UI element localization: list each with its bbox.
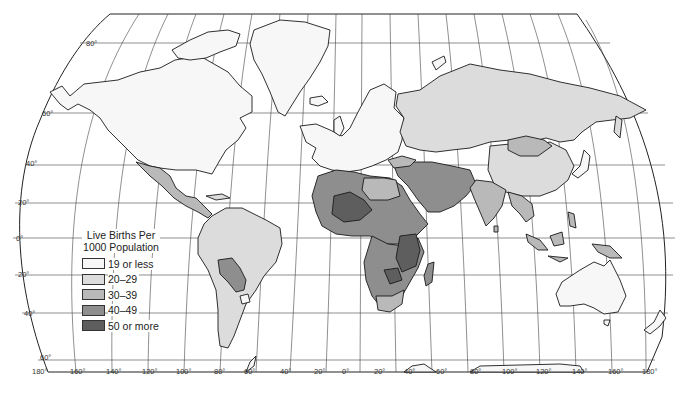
svg-text:160°: 160° [70, 367, 86, 376]
region-sakhalin [614, 116, 622, 138]
legend-swatch [82, 274, 105, 285]
svg-text:40°: 40° [404, 367, 415, 376]
legend-item: 40–49 [82, 303, 192, 319]
region-philippines [568, 212, 576, 228]
legend-title-line1: Live Births Per [82, 229, 160, 241]
region-tasmania [604, 320, 610, 326]
region-novaya-zemlya [432, 56, 446, 70]
svg-text:120°: 120° [142, 367, 158, 376]
region-antarctica [404, 364, 584, 372]
svg-text:100°: 100° [502, 367, 518, 376]
legend-swatch [82, 289, 105, 300]
legend-item: 20–29 [82, 272, 192, 288]
region-uk [334, 116, 344, 136]
region-indonesia [526, 232, 568, 262]
svg-text:100°: 100° [176, 367, 192, 376]
svg-text:80°: 80° [470, 367, 481, 376]
svg-text:140°: 140° [572, 367, 588, 376]
legend-item: 30–39 [82, 287, 192, 303]
region-madagascar [424, 262, 434, 286]
svg-text:160°: 160° [608, 367, 624, 376]
svg-text:140°: 140° [106, 367, 122, 376]
region-new-guinea [592, 244, 622, 258]
svg-text:60°: 60° [42, 109, 53, 118]
svg-text:120°: 120° [536, 367, 552, 376]
legend-swatch [82, 258, 105, 269]
region-arctic-islands [172, 30, 240, 60]
svg-text:60°: 60° [244, 367, 255, 376]
svg-text:60°: 60° [436, 367, 447, 376]
svg-text:20°: 20° [18, 270, 29, 279]
svg-text:60°: 60° [40, 353, 51, 362]
region-north-america [50, 56, 252, 174]
svg-text:80°: 80° [214, 367, 225, 376]
region-sri-lanka [494, 226, 498, 232]
svg-text:40°: 40° [26, 159, 37, 168]
svg-text:20°: 20° [314, 367, 325, 376]
region-libya-egypt [362, 178, 400, 200]
world-birth-rate-map: 80° 60° 40° 20° 0° 20° 40° 60° 180° 160°… [0, 0, 687, 400]
region-uruguay [240, 294, 250, 304]
svg-text:20°: 20° [18, 198, 29, 207]
svg-text:180°: 180° [32, 367, 48, 376]
legend-item: 50 or more [82, 318, 192, 334]
legend-item: 19 or less [82, 256, 192, 272]
legend-swatch [82, 320, 105, 331]
legend: Live Births Per 1000 Population 19 or le… [82, 229, 192, 334]
legend-swatch [82, 305, 105, 316]
region-iceland [310, 96, 328, 106]
legend-title-line2: 1000 Population [82, 241, 160, 253]
svg-text:20°: 20° [374, 367, 385, 376]
svg-text:0°: 0° [342, 367, 349, 376]
svg-text:0°: 0° [16, 234, 23, 243]
svg-text:40°: 40° [24, 309, 35, 318]
region-caribbean [206, 194, 230, 200]
region-australia [556, 260, 626, 314]
svg-text:40°: 40° [280, 367, 291, 376]
svg-text:80°: 80° [86, 39, 97, 48]
svg-text:180°: 180° [642, 367, 658, 376]
region-japan [572, 150, 590, 178]
